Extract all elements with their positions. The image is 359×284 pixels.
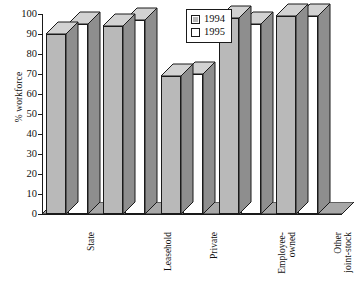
x-axis-label: Private [210, 232, 220, 259]
y-axis-tick-label: 0 [32, 209, 37, 220]
legend-label: 1994 [204, 14, 225, 25]
y-axis-tick-mark [38, 134, 43, 135]
legend-swatch-fill [193, 30, 198, 35]
y-axis-tick-mark [38, 94, 43, 95]
y-axis-tick-mark [38, 54, 43, 55]
y-axis-title: % workforce [14, 42, 24, 152]
plot-area: 1009080706050403020100 StateLeaseholdPri… [42, 14, 342, 214]
bar-side-face [318, 4, 330, 214]
y-axis-tick-label: 30 [27, 149, 38, 160]
y-axis-tick-mark [38, 214, 43, 215]
legend-swatch [191, 28, 200, 37]
y-axis-tick-mark [38, 154, 43, 155]
bar-group [103, 14, 157, 214]
bar-side-face [296, 4, 308, 214]
x-axis-line [42, 214, 342, 215]
y-axis-tick-label: 100 [21, 9, 37, 20]
bar-group [276, 14, 330, 214]
bar-1994 [161, 64, 181, 214]
y-axis-tick-mark [38, 194, 43, 195]
bar-side-face [88, 12, 100, 214]
y-axis-tick-label: 80 [27, 49, 38, 60]
legend-item: 1995 [191, 26, 225, 39]
bar-front-face [276, 16, 296, 214]
legend: 19941995 [186, 9, 232, 43]
y-axis-tick-mark [38, 174, 43, 175]
x-axis-label: Leasehold [164, 232, 174, 271]
legend-item: 1994 [191, 13, 225, 26]
y-axis-tick-mark [38, 34, 43, 35]
bar-group [219, 14, 273, 214]
bar-front-face [161, 76, 181, 214]
bar-1994 [276, 4, 296, 214]
bar-side-face [123, 14, 135, 214]
bar-group [46, 14, 100, 214]
bar-side-face [239, 6, 251, 214]
bar-chart: % workforce 1009080706050403020100 State… [0, 0, 359, 284]
y-axis-tick-mark [38, 74, 43, 75]
y-axis-tick-label: 90 [27, 29, 38, 40]
bar-side-face [203, 62, 215, 214]
y-axis-tick-label: 50 [27, 109, 38, 120]
legend-swatch-fill [193, 17, 198, 22]
y-axis-tick-label: 10 [27, 189, 38, 200]
bar-group [161, 14, 215, 214]
y-axis-tick-label: 40 [27, 129, 38, 140]
y-axis-tick-mark [38, 14, 43, 15]
y-axis-tick-label: 70 [27, 69, 38, 80]
bar-front-face [219, 18, 239, 214]
y-axis-tick-label: 60 [27, 89, 38, 100]
bar-side-face [66, 22, 78, 214]
bar-side-face [145, 8, 157, 214]
x-axis-label: Employee- owned [277, 232, 297, 274]
bar-front-face [46, 34, 66, 214]
bar-1994 [46, 22, 66, 214]
y-axis-tick-mark [38, 114, 43, 115]
y-axis-tick-label: 20 [27, 169, 38, 180]
bar-1994 [103, 14, 123, 214]
bar-side-face [181, 64, 193, 214]
x-axis-label: State [87, 232, 97, 251]
legend-label: 1995 [204, 27, 225, 38]
x-axis-label: Other joint-stock [334, 232, 354, 273]
bar-side-face [261, 12, 273, 214]
bar-front-face [103, 26, 123, 214]
legend-swatch [191, 15, 200, 24]
